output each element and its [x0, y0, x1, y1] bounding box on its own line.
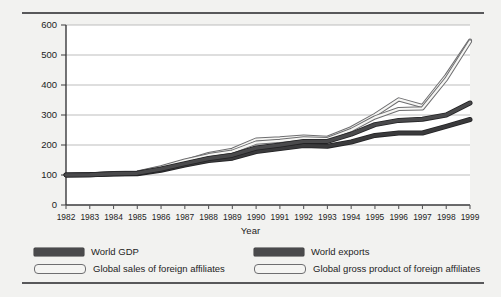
y-axis-tick-label: 300	[41, 109, 57, 120]
legend-item-global-sales[interactable]: Global sales of foreign affiliates	[34, 260, 225, 277]
y-axis-tick-label: 500	[41, 49, 57, 60]
x-axis-tick-label: 1987	[176, 212, 195, 222]
y-axis-tick-label: 100	[41, 169, 57, 180]
x-axis-tick-label: 1982	[57, 212, 76, 222]
x-axis-tick-label: 1993	[318, 212, 337, 222]
x-axis-title: Year	[0, 225, 501, 236]
legend-column-right: World exports Global gross product of fo…	[254, 243, 480, 277]
x-axis-tick-label: 1984	[104, 212, 123, 222]
x-axis-tick-label: 1997	[413, 212, 432, 222]
x-axis-tick-label: 1992	[294, 212, 313, 222]
y-axis-tick-label: 200	[41, 139, 57, 150]
x-axis-tick-label: 1985	[128, 212, 147, 222]
x-axis-tick-label: 1983	[80, 212, 99, 222]
legend-item-world-gdp[interactable]: World GDP	[34, 243, 225, 260]
legend-label-world-exports: World exports	[311, 246, 369, 257]
y-axis-tick-label: 600	[41, 19, 57, 30]
chart-figure: 0100200300400500600198219831984198519861…	[0, 0, 501, 297]
x-axis-tick-label: 1998	[437, 212, 456, 222]
x-axis-tick-label: 1990	[247, 212, 266, 222]
legend-item-world-exports[interactable]: World exports	[254, 243, 480, 260]
x-axis-tick-label: 1989	[223, 212, 242, 222]
x-axis-tick-label: 1996	[389, 212, 408, 222]
y-axis-tick-label: 0	[52, 199, 57, 210]
x-axis-tick-label: 1991	[271, 212, 290, 222]
legend-swatch-global-sales	[34, 264, 86, 274]
legend-swatch-global-gross-product	[254, 264, 306, 274]
legend-label-global-sales: Global sales of foreign affiliates	[93, 263, 225, 274]
x-axis-tick-label: 1988	[199, 212, 218, 222]
x-axis-tick-label: 1995	[366, 212, 385, 222]
x-axis-tick-label: 1999	[461, 212, 480, 222]
legend-label-world-gdp: World GDP	[91, 246, 139, 257]
legend-column-left: World GDP Global sales of foreign affili…	[34, 243, 225, 277]
legend-swatch-world-exports	[254, 248, 304, 256]
legend-item-global-gross-product[interactable]: Global gross product of foreign affiliat…	[254, 260, 480, 277]
x-axis-tick-label: 1994	[342, 212, 361, 222]
legend-swatch-world-gdp	[34, 248, 84, 256]
legend-label-global-gross-product: Global gross product of foreign affiliat…	[313, 263, 480, 274]
x-axis-tick-label: 1986	[152, 212, 171, 222]
y-axis-tick-label: 400	[41, 79, 57, 90]
chart-legend: World GDP Global sales of foreign affili…	[22, 243, 484, 277]
